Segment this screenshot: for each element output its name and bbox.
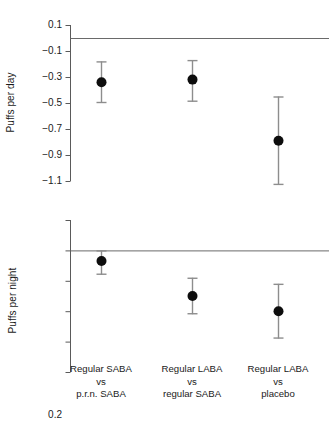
x-category-1-line1: Regular LABA	[162, 363, 223, 374]
data-point-group-1	[188, 60, 198, 102]
x-category-1-line3: regular SABA	[163, 388, 221, 399]
y-tick-label-day-6: −1.1	[18, 176, 62, 186]
panel-puffs-per-day: Puffs per day 0.1 −0.1 −0.3 −0.5 −0.7 −0…	[0, 0, 330, 200]
y-tick-label-night-0: 0.2	[18, 410, 62, 420]
x-category-2-line1: Regular LABA	[248, 363, 309, 374]
x-category-label-1: Regular LABA vs regular SABA	[144, 363, 240, 401]
data-point-marker-2	[274, 136, 284, 146]
y-tick-label-day-3: −0.5	[18, 98, 62, 108]
data-point-group-2	[274, 284, 284, 339]
x-category-label-2: Regular LABA vs placebo	[230, 363, 326, 401]
x-category-label-0: Regular SABA vs p.r.n. SABA	[53, 363, 149, 401]
data-point-group-0	[97, 61, 107, 103]
x-category-2-line2: vs	[273, 376, 283, 387]
data-point-marker-0	[97, 77, 107, 87]
y-tick-label-day-1: −0.1	[18, 46, 62, 56]
y-axis-title-night: Puffs per night	[7, 266, 18, 336]
data-point-marker-0	[97, 256, 107, 266]
y-axis-title-day: Puffs per day	[5, 71, 16, 135]
y-tick-label-day-0: 0.1	[18, 20, 62, 30]
x-category-0-line2: vs	[96, 376, 106, 387]
y-tick-label-day-2: −0.3	[18, 72, 62, 82]
y-tick-label-day-4: −0.7	[18, 124, 62, 134]
x-category-0-line3: p.r.n. SABA	[76, 388, 126, 399]
data-point-group-1	[188, 278, 198, 314]
y-tick-label-day-5: −0.9	[18, 150, 62, 160]
forest-plot-figure: Puffs per day 0.1 −0.1 −0.3 −0.5 −0.7 −0…	[0, 0, 330, 423]
data-point-group-0	[97, 250, 107, 274]
x-category-0-line1: Regular SABA	[70, 363, 132, 374]
panel-puffs-per-night: Puffs per night 0.2 0.0 −0.2 −0.4 −0.6 −…	[0, 195, 330, 423]
data-point-group-2	[274, 97, 284, 185]
data-point-marker-1	[188, 291, 198, 301]
x-category-2-line3: placebo	[261, 388, 295, 399]
data-point-marker-1	[188, 75, 198, 85]
x-category-1-line2: vs	[187, 376, 197, 387]
data-point-marker-2	[274, 306, 284, 316]
